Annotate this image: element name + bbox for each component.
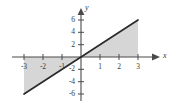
y-tick-label: 6 — [71, 16, 75, 24]
y-tick-label: 2 — [71, 41, 75, 49]
cartesian-plot — [0, 0, 175, 110]
x-tick-label: 2 — [117, 63, 121, 71]
y-tick-label: -2 — [69, 66, 75, 74]
y-tick-label: 4 — [71, 29, 75, 37]
x-tick-label: 1 — [98, 63, 102, 71]
x-axis-arrow-icon — [152, 54, 160, 61]
x-axis-label: x — [163, 52, 167, 60]
y-tick-label: -6 — [69, 90, 75, 98]
graph-figure: x y -3 -2 -1 1 2 3 6 4 2 -2 -4 -6 — [0, 0, 175, 110]
x-tick-label: -2 — [40, 63, 46, 71]
y-axis-arrow-icon — [78, 8, 85, 15]
x-tick-label: -3 — [21, 63, 27, 71]
x-tick-label: -1 — [59, 63, 65, 71]
x-tick-label: 3 — [136, 63, 140, 71]
y-axis-label: y — [85, 4, 89, 12]
y-tick-label: -4 — [69, 78, 75, 86]
